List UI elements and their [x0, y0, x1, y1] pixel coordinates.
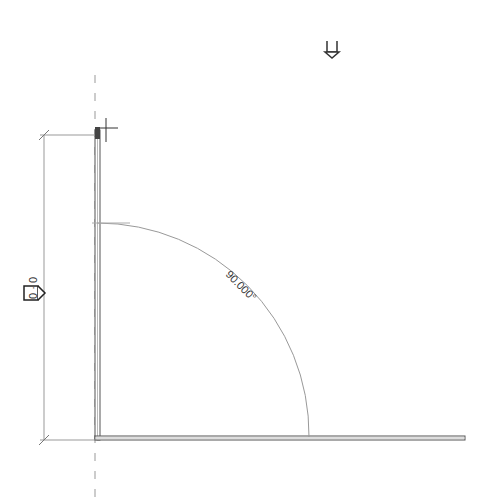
length-dimension[interactable]	[39, 130, 97, 445]
angle-arc[interactable]	[97, 223, 309, 437]
length-dimension-label[interactable]: 0 · 0	[27, 277, 39, 299]
vertical-wall[interactable]	[95, 130, 100, 440]
horizontal-wall[interactable]	[95, 436, 465, 440]
move-crosshair-icon[interactable]	[95, 118, 118, 142]
drawing-canvas[interactable]	[0, 0, 486, 500]
view-tag-icon[interactable]	[325, 41, 339, 58]
